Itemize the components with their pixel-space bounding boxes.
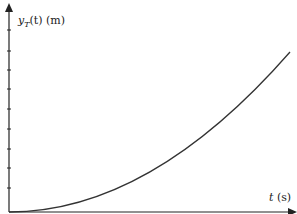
chart-canvas: [0, 0, 297, 214]
x-rest: (s): [273, 191, 291, 204]
curve-yT: [9, 52, 290, 212]
y-axis-label: yT(t) (m): [18, 14, 65, 29]
y-rest: (t) (m): [30, 14, 66, 27]
x-axis-label: t (s): [269, 191, 291, 204]
x-axis-arrow-icon: [288, 208, 297, 214]
y-axis-arrow-icon: [5, 3, 13, 12]
